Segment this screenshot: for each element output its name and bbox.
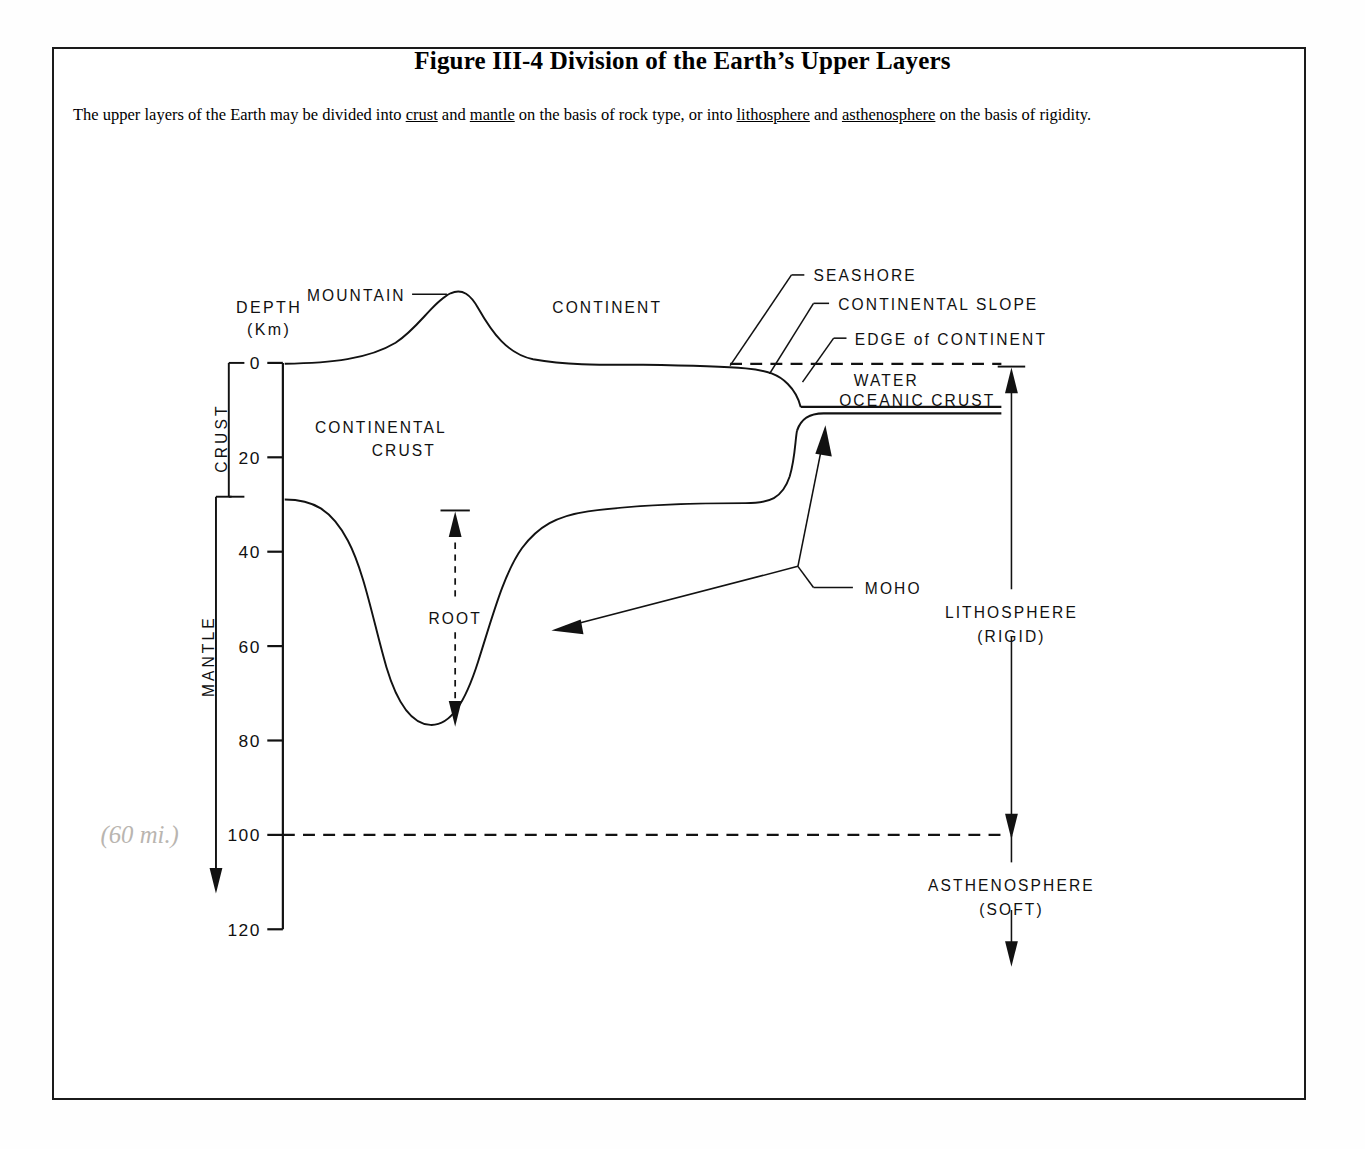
caption-text-5: on the basis of rigidity. — [935, 105, 1091, 124]
caption-text-4: and — [810, 105, 842, 124]
caption-text-3: on the basis of rock type, or into — [515, 105, 737, 124]
caption-term-mantle: mantle — [470, 105, 515, 124]
figure-frame — [52, 47, 1306, 1100]
figure-page: Figure III-4 Division of the Earth’s Upp… — [0, 0, 1365, 1149]
figure-title: Figure III-4 Division of the Earth’s Upp… — [0, 47, 1365, 75]
caption-text-1: The upper layers of the Earth may be div… — [73, 105, 406, 124]
caption-term-asthenosphere: asthenosphere — [842, 105, 935, 124]
figure-caption: The upper layers of the Earth may be div… — [73, 102, 1178, 129]
caption-text-2: and — [438, 105, 470, 124]
caption-term-crust: crust — [406, 105, 438, 124]
caption-term-lithosphere: lithosphere — [737, 105, 810, 124]
